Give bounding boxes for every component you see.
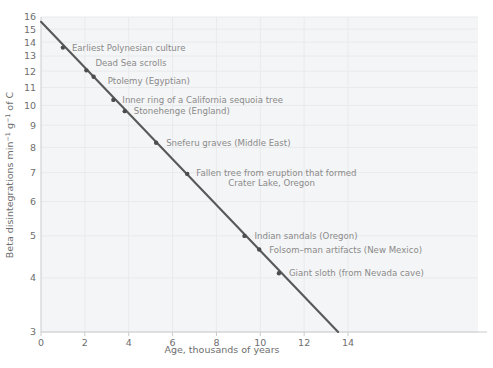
y-tick-label-13: 13 <box>24 50 36 61</box>
y-tick-label-7: 7 <box>30 167 36 178</box>
y-tick-label-11: 11 <box>24 82 36 93</box>
data-point-marker <box>185 172 189 176</box>
y-tick-label-10: 10 <box>24 100 36 111</box>
y-tick-label-15: 15 <box>24 24 36 35</box>
x-tick-label-4: 4 <box>126 337 132 348</box>
data-point-marker <box>123 109 127 113</box>
data-point-marker <box>84 68 88 72</box>
radiocarbon-decay-chart: 161514131211109876543 02468101214 Earlie… <box>0 0 493 368</box>
data-point-marker <box>277 271 281 275</box>
x-tick-label-12: 12 <box>298 337 310 348</box>
annotation-label: Indian sandals (Oregon) <box>254 231 357 241</box>
y-axis-title: Beta disintegrations min−1 g−1 of C <box>4 91 15 258</box>
data-point-marker <box>154 141 158 145</box>
annotation-label: Stonehenge (England) <box>134 106 230 116</box>
annotation-label: Dead Sea scrolls <box>95 58 167 68</box>
annotation-label: Sneferu graves (Middle East) <box>166 138 290 148</box>
annotation-label: Giant sloth (from Nevada cave) <box>289 268 424 278</box>
x-tick-label-14: 14 <box>342 337 354 348</box>
y-tick-label-8: 8 <box>30 142 36 153</box>
annotation-label: Fallen tree from eruption that formed <box>196 168 356 178</box>
y-tick-label-9: 9 <box>30 120 36 131</box>
annotation-label: Inner ring of a California sequoia tree <box>122 95 283 105</box>
y-tick-label-5: 5 <box>30 230 36 241</box>
data-point-marker <box>257 247 261 251</box>
y-tick-label-16: 16 <box>24 11 36 22</box>
x-axis-title: Age, thousands of years <box>164 344 279 355</box>
data-point-marker <box>61 45 65 49</box>
y-tick-label-6: 6 <box>30 196 36 207</box>
annotation-label: Ptolemy (Egyptian) <box>108 76 190 86</box>
y-tick-label-12: 12 <box>24 66 36 77</box>
y-tick-label-3: 3 <box>30 326 36 337</box>
annotation-label: Crater Lake, Oregon <box>228 178 315 188</box>
data-point-marker <box>242 234 246 238</box>
y-tick-label-14: 14 <box>24 37 36 48</box>
data-point-marker <box>91 75 95 79</box>
annotation-label: Folsom–man artifacts (New Mexico) <box>269 245 422 255</box>
y-axis-title-group: Beta disintegrations min−1 g−1 of C <box>4 91 15 258</box>
y-axis-ticks: 161514131211109876543 <box>24 11 36 337</box>
data-point-marker <box>111 98 115 102</box>
chart-canvas: 161514131211109876543 02468101214 Earlie… <box>0 0 493 368</box>
x-tick-label-2: 2 <box>82 337 88 348</box>
y-tick-label-4: 4 <box>30 272 36 283</box>
x-tick-label-0: 0 <box>38 337 44 348</box>
annotation-label: Earliest Polynesian culture <box>72 43 186 53</box>
